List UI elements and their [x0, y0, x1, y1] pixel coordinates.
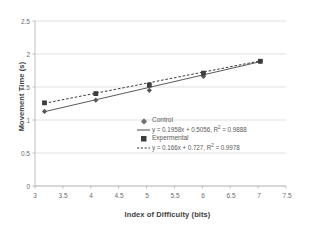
data-point-marker — [42, 109, 47, 114]
data-point-marker — [42, 100, 47, 105]
data-point-marker — [147, 83, 152, 88]
data-point-marker — [201, 71, 206, 76]
square-marker-icon — [139, 134, 151, 143]
legend-label-control: Control — [152, 116, 173, 123]
diamond-marker-icon — [139, 117, 151, 126]
legend-label-experimental-equation: y = 0.166x + 0.727, R2 = 0.9978 — [152, 143, 240, 151]
axis-lines — [33, 21, 287, 189]
data-point-marker — [93, 91, 98, 96]
gridlines — [35, 21, 286, 186]
data-point-marker — [93, 98, 98, 103]
chart-container: Movement Time (s) 2.5 2 1.5 1 0.5 0 3 3.… — [0, 0, 309, 231]
legend-label-control-equation: y = 0.1958x + 0.5056, R2 = 0.9888 — [152, 125, 247, 133]
data-point-marker — [258, 59, 263, 64]
dashed-line-swatch-icon — [136, 144, 152, 152]
control-r2-value: = 0.9888 — [221, 126, 247, 133]
solid-line-swatch-icon — [136, 126, 152, 134]
trendline-experimental — [44, 61, 260, 103]
legend-label-experimental: Expermental — [152, 134, 188, 141]
series-layer — [42, 59, 263, 114]
experimental-r2-value: = 0.9978 — [214, 144, 240, 151]
data-point-marker — [147, 88, 152, 93]
control-equation-text: y = 0.1958x + 0.5056, R — [152, 126, 218, 133]
experimental-equation-text: y = 0.166x + 0.727, R — [152, 144, 211, 151]
